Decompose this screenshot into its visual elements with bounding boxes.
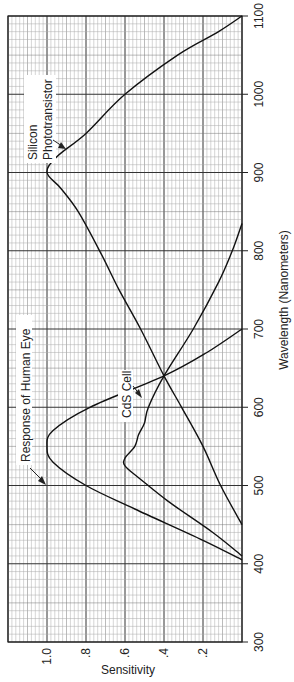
curve-cds-cell <box>124 223 242 556</box>
y-tick-label: .8 <box>79 648 93 658</box>
arrow-head-icon <box>58 142 66 149</box>
sensitivity-chart: 30040050060070080090010001100.2.4.6.81.0… <box>0 0 294 682</box>
y-tick-label: .4 <box>157 648 171 658</box>
annotation-eye-label: Response of Human Eye <box>19 328 33 462</box>
y-axis-label: Sensitivity <box>101 663 155 677</box>
x-axis-label: Wavelength (Nanometers) <box>277 230 291 370</box>
x-tick-label: 900 <box>252 162 266 182</box>
x-tick-label: 1000 <box>252 81 266 108</box>
y-tick-label: .6 <box>118 648 132 658</box>
x-tick-label: 500 <box>252 475 266 495</box>
x-tick-label: 800 <box>252 240 266 260</box>
y-tick-label: 1.0 <box>40 648 54 665</box>
x-tick-label: 1100 <box>252 3 266 29</box>
annotation-silicon-label-1: Silicon <box>26 125 40 160</box>
annotation-silicon-label-2: Phototransistor <box>41 79 55 160</box>
annotation-human-eye: Response of Human Eye <box>16 315 46 485</box>
annotation-cds-label: CdS Cell <box>120 371 134 418</box>
x-tick-label: 400 <box>252 553 266 573</box>
x-tick-label: 700 <box>252 319 266 339</box>
y-tick-label: .2 <box>196 648 210 658</box>
x-tick-label: 300 <box>252 632 266 652</box>
annotation-cds: CdS Cell <box>118 370 142 422</box>
x-tick-label: 600 <box>252 397 266 417</box>
annotation-silicon: Silicon Phototransistor <box>24 75 66 163</box>
